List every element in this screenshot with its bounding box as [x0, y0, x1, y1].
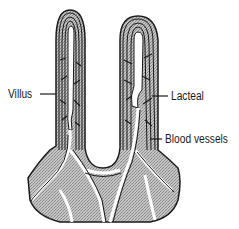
left-villus: [59, 13, 82, 150]
villus-label: Villus: [8, 88, 32, 101]
villi-diagram: Villus Lacteal Blood vessels: [0, 0, 239, 229]
blood-vessels-label: Blood vessels: [165, 133, 228, 146]
lacteal-label: Lacteal: [171, 90, 204, 103]
base-tissue: [28, 10, 180, 222]
villi-illustration: [0, 0, 239, 229]
